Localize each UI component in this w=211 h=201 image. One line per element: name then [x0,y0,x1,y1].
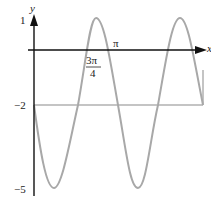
x-tick-3pi-4-num: 3π [86,54,98,66]
y-tick-minus-2: −2 [14,99,26,111]
y-tick-minus-5: −5 [14,183,26,195]
x-tick-pi: π [113,37,119,49]
x-axis-label: x [206,42,211,54]
sinusoid-chart: y x 1 −2 −5 3π 4 π [0,0,211,201]
x-tick-3pi-4-den: 4 [90,67,96,79]
y-axis-label: y [29,2,35,14]
y-tick-1: 1 [20,14,26,26]
y-axis-arrow-icon [30,14,38,26]
x-axis-arrow-icon [195,46,207,54]
